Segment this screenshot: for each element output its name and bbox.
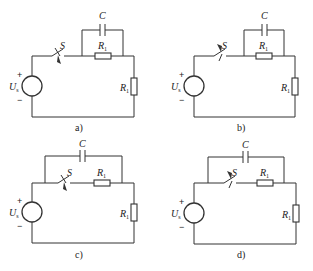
panel-c: S C R1 R1 + − Us c) xyxy=(9,138,137,261)
resistor-r1-load xyxy=(293,205,299,222)
resistor-r1-series-label: R1 xyxy=(97,40,107,52)
resistor-r1-load-label: R1 xyxy=(280,82,290,94)
cap-wire-right xyxy=(267,30,284,56)
plus-sign: + xyxy=(179,70,184,80)
source-label: Us xyxy=(171,81,181,93)
wire-bottom xyxy=(32,221,134,243)
voltage-source-us xyxy=(184,203,204,223)
panel-d: S C R1 R1 + − Us d) xyxy=(171,139,299,261)
resistor-r1-load-label: R1 xyxy=(281,209,291,221)
switch-label: S xyxy=(67,167,72,178)
resistor-r1-series-label: R1 xyxy=(259,167,269,179)
wire-bottom xyxy=(194,95,295,117)
arrow-down-icon xyxy=(63,182,67,191)
resistor-r1-load xyxy=(131,204,137,221)
resistor-r1-series-label: R1 xyxy=(258,40,268,52)
resistor-r1-load-label: R1 xyxy=(119,82,129,94)
voltage-source-us xyxy=(22,202,42,222)
wire-bottom xyxy=(194,222,296,244)
wire-left-top xyxy=(32,183,58,202)
panel-caption: a) xyxy=(75,122,83,134)
panel-caption: b) xyxy=(237,122,245,134)
capacitor-c: C xyxy=(79,138,86,162)
switch-label: S xyxy=(222,40,227,51)
voltage-source-us xyxy=(184,76,204,96)
minus-sign: − xyxy=(179,95,184,105)
resistor-r1-load xyxy=(292,78,298,95)
capacitor-label: C xyxy=(99,10,106,21)
resistor-r1-series-label: R1 xyxy=(96,167,106,179)
cap-wire-left xyxy=(45,156,80,183)
capacitor-label: C xyxy=(261,10,268,21)
switch-label: S xyxy=(232,167,237,178)
capacitor-c: C xyxy=(261,10,268,36)
panel-caption: c) xyxy=(75,249,83,261)
plus-sign: + xyxy=(179,197,184,207)
switch-s: S xyxy=(58,167,72,191)
wire-left-top xyxy=(32,56,52,76)
minus-sign: − xyxy=(179,222,184,232)
voltage-source-us xyxy=(22,76,42,96)
arrow-down-icon xyxy=(57,55,61,64)
cap-wire-right xyxy=(105,30,123,56)
switch-s: S xyxy=(224,167,237,188)
plus-sign: + xyxy=(17,70,22,80)
switch-s: S xyxy=(214,40,227,61)
capacitor-c: C xyxy=(99,10,106,36)
switch-s: S xyxy=(52,40,65,64)
wire-left-top xyxy=(194,56,214,76)
resistor-r1-series xyxy=(257,180,273,186)
circuit-figure: S C R1 R1 + − Us a) S xyxy=(0,0,313,271)
minus-sign: − xyxy=(17,95,22,105)
capacitor-label: C xyxy=(79,138,86,149)
minus-sign: − xyxy=(17,221,22,231)
resistor-r1-load xyxy=(131,78,137,95)
source-label: Us xyxy=(9,81,19,93)
panel-a: S C R1 R1 + − Us a) xyxy=(9,10,137,134)
switch-label: S xyxy=(60,40,65,51)
resistor-r1-series xyxy=(94,180,110,186)
panel-caption: d) xyxy=(237,249,245,261)
source-label: Us xyxy=(9,207,19,219)
cap-wire-left xyxy=(208,157,243,183)
panel-b: S C R1 R1 + − Us b) xyxy=(171,10,298,134)
resistor-r1-load-label: R1 xyxy=(119,208,129,220)
resistor-r1-series xyxy=(256,53,272,59)
capacitor-label: C xyxy=(242,139,249,150)
capacitor-c: C xyxy=(242,139,249,163)
plus-sign: + xyxy=(17,196,22,206)
wire-left-top xyxy=(194,183,224,203)
source-label: Us xyxy=(171,208,181,220)
resistor-r1-series xyxy=(95,53,111,59)
wire-bottom xyxy=(32,95,134,117)
